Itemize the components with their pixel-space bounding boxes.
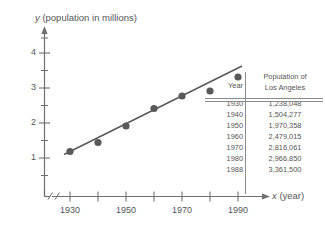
x-axis-description: (year) <box>277 190 304 201</box>
cell-population: 1,970,358 <box>247 121 323 132</box>
cell-year: 1950 <box>205 121 247 132</box>
population-scatter-figure: y (population in millions) x (year) 4 3 … <box>0 0 325 233</box>
y-tick-label-4: 4 <box>22 47 36 57</box>
table-column-divider <box>245 72 246 194</box>
table-row: 1970 2,816,061 <box>205 143 323 154</box>
data-point <box>94 139 101 146</box>
cell-population: 3,361,500 <box>247 165 323 176</box>
x-tick-label-1950: 1950 <box>109 205 143 215</box>
table-header-year: Year <box>209 81 243 92</box>
x-axis <box>45 190 271 200</box>
y-tick-label-2: 2 <box>22 117 36 127</box>
x-axis-title: x (year) <box>272 190 304 201</box>
x-tick-label-1970: 1970 <box>165 205 199 215</box>
table-body: 1930 1,238,048 1940 1,504,277 1950 1,970… <box>205 99 323 176</box>
table-header-rule <box>205 98 323 102</box>
population-data-table: Year Population of Los Angeles 1930 1,23… <box>205 72 323 176</box>
cell-population: 2,816,061 <box>247 143 323 154</box>
cell-population: 2,479,015 <box>247 132 323 143</box>
x-tick-label-1990: 1990 <box>221 205 255 215</box>
data-point <box>178 92 185 99</box>
y-tick-label-3: 3 <box>22 82 36 92</box>
y-tick-label-1: 1 <box>22 152 36 162</box>
table-row: 1988 3,361,500 <box>205 165 323 176</box>
cell-year: 1980 <box>205 154 247 165</box>
table-row: 1940 1,504,277 <box>205 110 323 121</box>
cell-year: 1940 <box>205 110 247 121</box>
table-header-population-line2: Los Angeles <box>251 83 319 94</box>
y-axis-title: y (population in millions) <box>35 12 137 23</box>
cell-year: 1970 <box>205 143 247 154</box>
cell-year: 1988 <box>205 165 247 176</box>
table-header-row: Year Population of Los Angeles <box>205 72 323 94</box>
y-axis <box>41 26 47 196</box>
x-tick-label-1930: 1930 <box>53 205 87 215</box>
table-row: 1960 2,479,015 <box>205 132 323 143</box>
cell-population: 1,504,277 <box>247 110 323 121</box>
y-axis-description: (population in millions) <box>40 12 137 23</box>
cell-year: 1960 <box>205 132 247 143</box>
cell-population: 2,966,850 <box>247 154 323 165</box>
data-point <box>150 105 157 112</box>
data-point <box>122 122 129 129</box>
table-header-population-line1: Population of <box>251 72 319 83</box>
table-row: 1980 2,966,850 <box>205 154 323 165</box>
table-row: 1950 1,970,358 <box>205 121 323 132</box>
data-point <box>66 148 73 155</box>
